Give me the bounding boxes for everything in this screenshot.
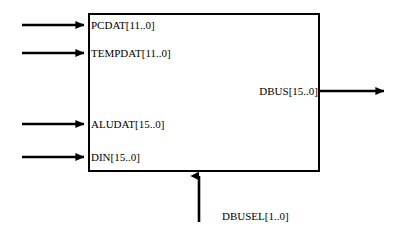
port-label-pcdat: PCDAT[11..0] [91, 19, 155, 31]
port-label-tempdat: TEMPDAT[11..0] [91, 47, 171, 59]
port-label-dbus: DBUS[15..0] [230, 85, 318, 97]
port-label-din: DIN[15..0] [91, 151, 140, 163]
block-diagram-canvas: PCDAT[11..0] TEMPDAT[11..0] ALUDAT[15..0… [0, 0, 403, 242]
port-label-aludat: ALUDAT[15..0] [91, 118, 164, 130]
diagram-vector-layer [0, 0, 403, 242]
port-label-dbusel: DBUSEL[1..0] [222, 210, 289, 222]
